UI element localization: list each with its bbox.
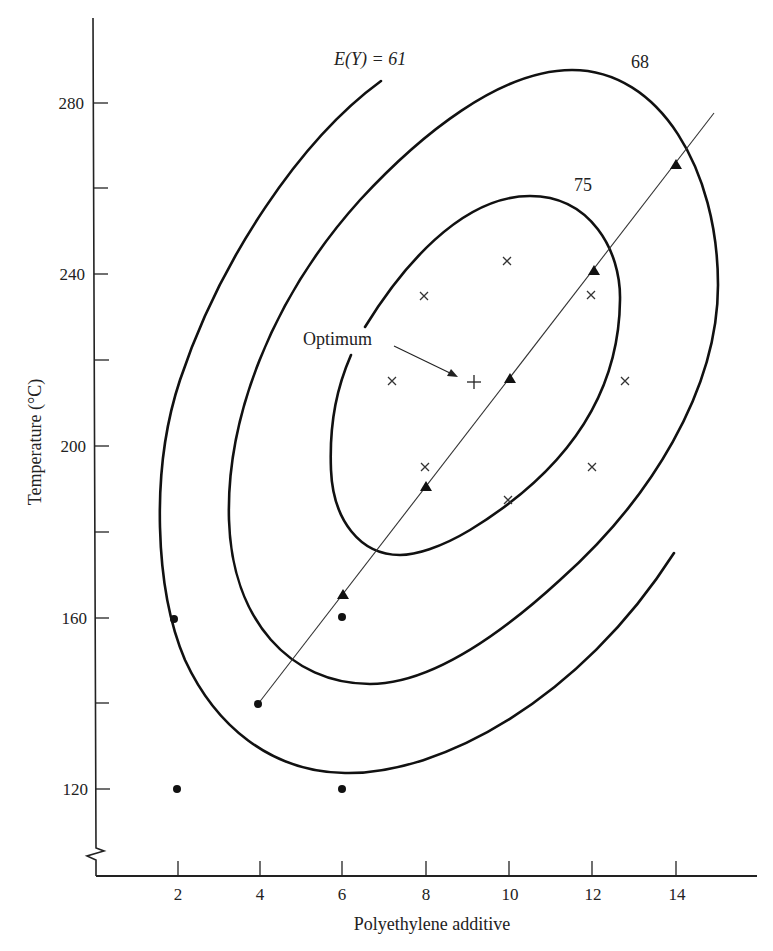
optimum-arrow <box>394 346 458 377</box>
y-axis-title: Temperature (°C) <box>25 379 46 505</box>
contour-label-75: 75 <box>574 175 592 195</box>
y-tick-160: 160 <box>62 609 88 628</box>
optimum-plus-marker <box>467 375 481 389</box>
dot-markers <box>170 613 346 793</box>
x-tick-12: 12 <box>585 885 602 904</box>
x-tick-6: 6 <box>338 885 347 904</box>
contour-61 <box>160 81 674 773</box>
y-tick-280: 280 <box>59 94 85 113</box>
x-ticks <box>178 861 676 876</box>
x-tick-2: 2 <box>174 885 183 904</box>
x-tick-labels: 2 4 6 8 10 12 14 <box>174 885 686 904</box>
contour-chart: 280 240 200 160 120 2 4 6 8 10 12 14 Pol… <box>0 0 773 951</box>
y-axis <box>87 18 104 876</box>
contour-75-upper <box>331 196 620 555</box>
triangle-markers <box>337 159 682 599</box>
x-axis-title: Polyethylene additive <box>354 914 510 934</box>
y-tick-240: 240 <box>60 265 86 284</box>
y-tick-200: 200 <box>61 437 87 456</box>
x-tick-4: 4 <box>256 885 265 904</box>
y-tick-120: 120 <box>63 780 89 799</box>
contour-label-61: E(Y) = 61 <box>333 49 406 70</box>
x-tick-14: 14 <box>669 885 687 904</box>
y-tick-labels: 280 240 200 160 120 <box>59 94 89 799</box>
x-tick-10: 10 <box>502 885 519 904</box>
y-ticks <box>94 103 110 789</box>
steepest-ascent-line <box>258 113 714 704</box>
x-tick-8: 8 <box>422 885 431 904</box>
contour-label-68: 68 <box>631 52 649 72</box>
contours <box>160 70 718 773</box>
optimum-label: Optimum <box>303 329 372 349</box>
